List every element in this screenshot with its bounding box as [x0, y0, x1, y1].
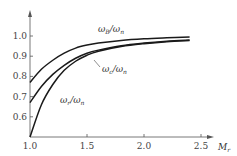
x-axis-arrow-icon — [207, 135, 214, 139]
curve-label-omega-r: ωr/ωn — [60, 95, 85, 106]
leader-line-omega-c — [94, 60, 100, 67]
x-tick-label: 2.0 — [137, 141, 152, 151]
x-tick-label: 1.0 — [23, 141, 38, 151]
y-tick-label: 0.6 — [13, 112, 28, 122]
x-tick-label: 2.5 — [194, 141, 209, 151]
y-axis-arrow-icon — [28, 10, 32, 17]
curve-label-omega-b: ωB/ωn — [98, 24, 124, 35]
x-axis-label: Mr — [217, 142, 231, 153]
curve-series-2 — [30, 40, 190, 137]
curve-series-0 — [30, 37, 190, 82]
y-tick-label: 1.0 — [13, 31, 28, 41]
x-ticks: 1.01.52.02.5 — [23, 134, 209, 151]
curves — [30, 37, 190, 137]
curve-label-omega-c: ωc/ωn — [102, 64, 127, 75]
line-chart: 0.60.70.80.91.0 1.01.52.02.5 ωB/ωn ωc/ωn… — [0, 0, 237, 156]
y-tick-label: 0.7 — [13, 92, 28, 102]
x-tick-label: 1.5 — [80, 141, 95, 151]
y-tick-label: 0.9 — [13, 51, 28, 61]
y-tick-label: 0.8 — [13, 71, 28, 81]
